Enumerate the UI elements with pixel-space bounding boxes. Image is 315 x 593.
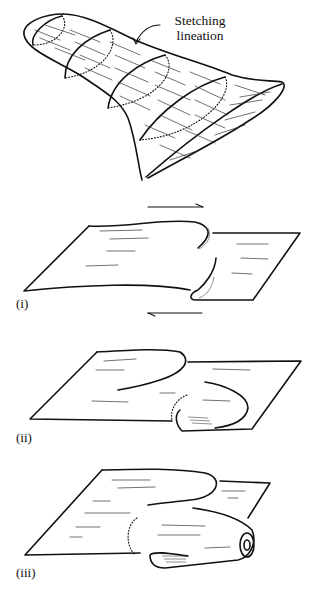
lineation-hatching — [35, 25, 270, 160]
sheath-fold-cone — [24, 14, 284, 180]
annotation-line-1: Stetching — [160, 13, 240, 28]
panel-label-i: (i) — [16, 296, 28, 312]
panel-i-drawing — [24, 221, 300, 300]
panel-label-iii: (iii) — [16, 565, 36, 581]
annotation-line-2: lineation — [160, 28, 240, 43]
panel-ii-drawing — [30, 350, 301, 431]
panel-iii-drawing — [25, 469, 270, 568]
shear-arrow-bottom — [148, 313, 202, 316]
panel-label-ii: (ii) — [16, 430, 32, 446]
annotation-stretching-lineation: Stetching lineation — [160, 13, 240, 43]
sheath-fold-diagram — [0, 0, 315, 593]
shear-arrow-top — [148, 204, 203, 207]
